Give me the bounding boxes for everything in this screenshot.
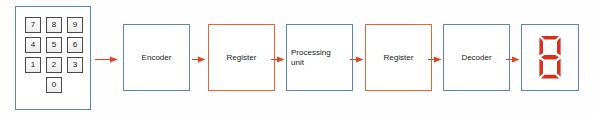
arrow-encoder-to-register-1 — [192, 56, 206, 63]
keypad-key-1[interactable]: 1 — [25, 57, 41, 73]
block-encoder[interactable]: Encoder — [123, 24, 190, 91]
block-register-2-label: Register — [366, 53, 431, 63]
keypad-key-9[interactable]: 9 — [67, 17, 83, 33]
arrow-register-2-to-decoder — [428, 56, 442, 63]
keypad-key-8[interactable]: 8 — [46, 17, 62, 33]
arrow-register-1-to-processing-unit — [271, 56, 285, 63]
block-processing-unit-label: Processing unit — [287, 48, 352, 68]
block-register-1-label: Register — [209, 53, 274, 63]
segment-c-icon — [557, 58, 561, 76]
seven-segment-display — [521, 24, 579, 91]
block-register-1[interactable]: Register — [208, 24, 275, 91]
block-diagram: 7 8 9 4 5 6 1 2 3 0 Encoder — [0, 0, 595, 118]
segment-f-icon — [539, 37, 543, 55]
block-register-2[interactable]: Register — [365, 24, 432, 91]
seven-segment-digit — [536, 35, 564, 81]
keypad-key-5[interactable]: 5 — [46, 37, 62, 53]
segment-d-icon — [541, 74, 559, 78]
keypad-key-0[interactable]: 0 — [46, 77, 62, 93]
block-processing-unit[interactable]: Processing unit — [286, 24, 353, 91]
arrow-processing-unit-to-register-2 — [350, 56, 364, 63]
keypad-key-6[interactable]: 6 — [67, 37, 83, 53]
block-encoder-label: Encoder — [124, 53, 189, 63]
keypad-grid: 7 8 9 4 5 6 1 2 3 0 — [22, 17, 86, 93]
numeric-keypad[interactable]: 7 8 9 4 5 6 1 2 3 0 — [15, 6, 91, 110]
keypad-key-3[interactable]: 3 — [67, 57, 83, 73]
segment-b-icon — [557, 37, 561, 55]
block-decoder[interactable]: Decoder — [443, 24, 510, 91]
arrow-keypad-to-encoder — [95, 56, 119, 63]
segment-a-icon — [541, 36, 559, 40]
keypad-row-middle: 4 5 6 — [22, 37, 86, 53]
block-decoder-label: Decoder — [444, 53, 509, 63]
segment-e-icon — [539, 58, 543, 76]
segment-g-icon — [541, 54, 559, 59]
keypad-key-4[interactable]: 4 — [25, 37, 41, 53]
keypad-row-zero: 0 — [22, 77, 86, 93]
keypad-row-lower: 1 2 3 — [22, 57, 86, 73]
arrow-decoder-to-display — [506, 56, 520, 63]
keypad-key-2[interactable]: 2 — [46, 57, 62, 73]
keypad-key-7[interactable]: 7 — [25, 17, 41, 33]
keypad-row-top: 7 8 9 — [22, 17, 86, 33]
